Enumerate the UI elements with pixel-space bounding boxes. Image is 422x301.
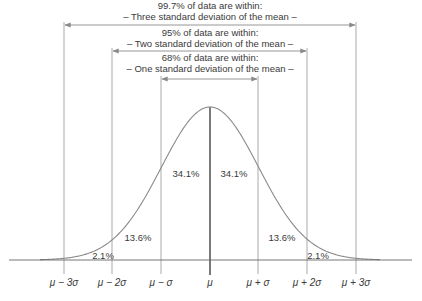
tick-mu: μ: [206, 277, 213, 288]
tick-mu-plus-3sigma: μ + 3σ: [341, 277, 371, 288]
tick-mu-plus-2sigma: μ + 2σ: [292, 277, 322, 288]
tick-mu-plus-sigma: μ + σ: [246, 277, 271, 288]
pct-left-1sigma: 34.1%: [173, 168, 200, 179]
range3-title: 99.7% of data are within:: [158, 0, 263, 11]
tick-mu-minus-2sigma: μ − 2σ: [97, 277, 127, 288]
range1-subtitle: – One standard deviation of the mean –: [127, 63, 295, 74]
range1-title: 68% of data are within:: [162, 52, 259, 63]
diagram-canvas: 99.7% of data are within: – Three standa…: [0, 0, 422, 301]
range2-title: 95% of data are within:: [162, 27, 259, 38]
pct-right-1sigma: 34.1%: [221, 168, 248, 179]
tick-mu-minus-3sigma: μ − 3σ: [49, 277, 79, 288]
pct-left-2sigma: 13.6%: [125, 232, 152, 243]
tick-mu-minus-sigma: μ − σ: [149, 277, 174, 288]
pct-left-3sigma: 2.1%: [92, 250, 114, 261]
pct-right-3sigma: 2.1%: [307, 250, 329, 261]
normal-distribution-diagram: 99.7% of data are within: – Three standa…: [0, 0, 422, 301]
range2-subtitle: – Two standard deviation of the mean –: [127, 38, 294, 49]
pct-right-2sigma: 13.6%: [269, 232, 296, 243]
range3-subtitle: – Three standard deviation of the mean –: [123, 11, 297, 22]
